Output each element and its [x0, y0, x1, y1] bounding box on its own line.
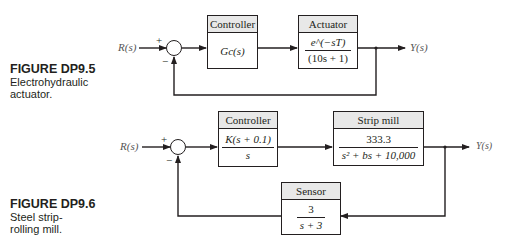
figure-description: Steel strip-: [10, 211, 95, 223]
plus-sign: +: [156, 34, 162, 46]
transfer-function: Gc(s): [220, 45, 244, 57]
numerator: 333.3: [363, 133, 394, 146]
numerator: K(s + 0.1): [222, 133, 274, 146]
figure-title: FIGURE DP9.6: [10, 198, 95, 211]
denominator: s + 3: [297, 219, 326, 232]
figure-description: Electrohydraulic: [10, 76, 95, 88]
sensor-block: Sensor 3 s + 3: [281, 182, 341, 235]
minus-sign: −: [166, 154, 172, 166]
minus-sign: −: [162, 55, 168, 67]
controller-block: Controller K(s + 0.1) s: [218, 111, 278, 167]
output-label-y: Y(s): [410, 41, 428, 53]
figure-title: FIGURE DP9.5: [10, 63, 95, 76]
figure-description: rolling mill.: [10, 223, 95, 235]
figure-description: actuator.: [10, 88, 95, 100]
summing-junction-2: [171, 140, 186, 155]
figure-dp9-5-caption: FIGURE DP9.5 Electrohydraulic actuator.: [10, 63, 95, 100]
block-header: Actuator: [299, 16, 357, 33]
block-header: Sensor: [282, 183, 340, 200]
input-label-r: R(s): [120, 140, 138, 152]
denominator: s² + bs + 10,000: [339, 149, 418, 162]
output-label-y: Y(s): [476, 140, 492, 151]
numerator: 3: [305, 203, 317, 216]
input-label-r: R(s): [118, 41, 136, 53]
summing-junction: [167, 41, 182, 56]
block-header: Controller: [219, 112, 277, 129]
figure-dp9-6-caption: FIGURE DP9.6 Steel strip- rolling mill.: [10, 198, 95, 235]
denominator: (10s + 1): [305, 52, 351, 65]
plus-sign: +: [161, 133, 167, 145]
block-header: Controller: [208, 16, 257, 33]
controller-block: Controller Gc(s): [207, 15, 258, 69]
numerator: e^(−sT): [308, 36, 349, 49]
actuator-block: Actuator e^(−sT) (10s + 1): [298, 15, 358, 69]
strip-mill-block: Strip mill 333.3 s² + bs + 10,000: [333, 111, 424, 166]
denominator: s: [243, 149, 253, 162]
block-header: Strip mill: [334, 112, 423, 129]
